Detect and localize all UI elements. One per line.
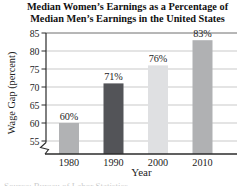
bar-value-label: 71%: [104, 71, 123, 82]
bar-2000: [148, 65, 168, 154]
y-tick-label: 55: [30, 136, 40, 147]
y-tick-label: 70: [30, 82, 40, 93]
bar-value-label: 83%: [193, 28, 212, 39]
bar-1990: [104, 83, 124, 154]
plot-area: 5560657075808560%198071%199076%200083%20…: [0, 0, 243, 186]
y-tick-label: 75: [30, 64, 40, 75]
y-tick-label: 65: [30, 100, 40, 111]
bar-2010: [193, 40, 213, 154]
bar-value-label: 76%: [149, 53, 168, 64]
y-tick-label: 85: [30, 28, 40, 39]
x-axis-title: Year: [46, 166, 237, 178]
bar-chart-figure: Median Women’s Earnings as a Percentage …: [0, 0, 243, 186]
y-tick-label: 60: [30, 118, 40, 129]
axis-break-icon: [41, 143, 49, 155]
bar-value-label: 60%: [60, 111, 79, 122]
y-tick-label: 80: [30, 46, 40, 57]
source-line: Source: Bureau of Labor Statistics: [4, 181, 128, 186]
bar-1980: [59, 123, 79, 154]
